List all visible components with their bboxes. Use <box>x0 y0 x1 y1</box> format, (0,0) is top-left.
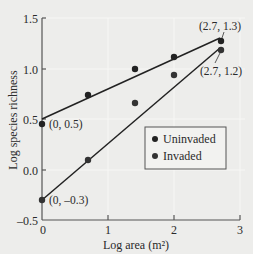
uninvaded-points <box>39 38 224 127</box>
annotation: (2.7, 1.2) <box>200 65 242 78</box>
scatter-chart: 1.5 1.0 0.5 0.0 –0.5 0 1 2 3 Log area (m… <box>0 0 253 254</box>
y-tick: 1.0 <box>23 63 38 77</box>
legend-marker-invaded <box>152 153 158 159</box>
uninvaded-fit-line <box>42 38 220 119</box>
annotation: (0, 0.5) <box>49 118 83 131</box>
y-axis-label: Log species richness <box>6 70 20 170</box>
legend-label-invaded: Invaded <box>163 149 202 163</box>
y-tick: 0.0 <box>23 164 38 178</box>
x-tick: 2 <box>171 223 177 237</box>
y-tick: –0.5 <box>16 214 38 228</box>
x-tick: 0 <box>40 223 46 237</box>
legend-marker-uninvaded <box>152 136 158 142</box>
x-axis-label: Log area (m²) <box>103 238 169 252</box>
legend: Uninvaded Invaded <box>145 127 226 169</box>
x-tick-labels: 0 1 2 3 <box>40 223 243 237</box>
y-tick: 0.5 <box>23 113 38 127</box>
annotation: (0, –0.3) <box>49 194 88 207</box>
y-tick: 1.5 <box>23 12 38 26</box>
annotation: (2.7, 1.3) <box>199 20 241 33</box>
x-tick: 1 <box>105 223 111 237</box>
x-tick: 3 <box>237 223 243 237</box>
annotations: (0, 0.5) (0, –0.3) (2.7, 1.3) (2.7, 1.2) <box>49 20 242 207</box>
legend-label-uninvaded: Uninvaded <box>163 132 216 146</box>
